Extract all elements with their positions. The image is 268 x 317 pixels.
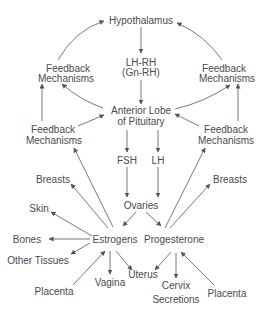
node-breasts-left: Breasts (36, 174, 70, 185)
node-vagina: Vagina (95, 277, 125, 288)
node-placenta-right: Placenta (208, 288, 247, 299)
node-ovaries: Ovaries (124, 200, 158, 211)
node-feedback-lower-right-line1: Feedback (204, 124, 248, 135)
node-anterior-lobe-line1: Anterior Lobe (111, 105, 171, 116)
node-lh: LH (152, 155, 165, 166)
node-cervix-line1: Cervix (162, 280, 190, 291)
node-anterior-lobe-line2: of Pituitary (117, 116, 164, 127)
node-breasts-right: Breasts (213, 174, 247, 185)
node-feedback-lower-left-line1: Feedback (31, 124, 75, 135)
node-placenta-left: Placenta (35, 286, 74, 297)
node-uterus: Uterus (128, 269, 157, 280)
node-cervix-line2: Secretions (152, 294, 199, 305)
node-fsh: FSH (117, 155, 137, 166)
node-feedback-lower-right-line2: Mechanisms (198, 135, 254, 146)
node-feedback-lower-left-line2: Mechanisms (26, 135, 82, 146)
node-skin: Skin (29, 203, 48, 214)
node-other-tissues: Other Tissues (7, 255, 69, 266)
node-bones: Bones (13, 234, 41, 245)
node-lhrh-line2: (Gn-RH) (122, 67, 160, 78)
node-progesterone: Progesterone (144, 234, 204, 245)
node-estrogens: Estrogens (92, 234, 137, 245)
node-hypothalamus: Hypothalamus (109, 15, 173, 26)
hormone-regulation-diagram: Hypothalamus LH-RH (Gn-RH) Feedback Mech… (0, 0, 268, 317)
node-feedback-upper-right-line2: Mechanisms (199, 73, 255, 84)
node-feedback-upper-left-line2: Mechanisms (38, 73, 94, 84)
